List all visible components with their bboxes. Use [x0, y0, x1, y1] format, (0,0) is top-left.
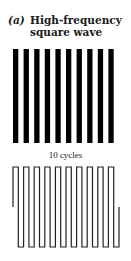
square-wave-plot [0, 0, 131, 261]
square-wave-line [13, 167, 119, 247]
